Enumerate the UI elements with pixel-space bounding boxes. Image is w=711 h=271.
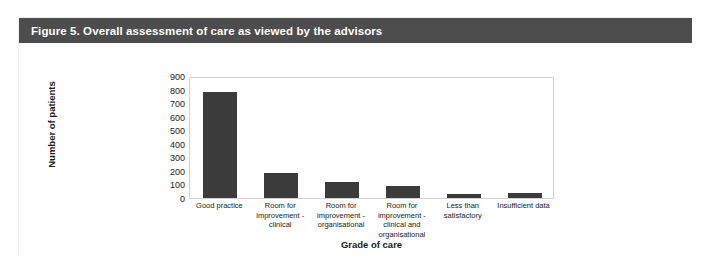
x-axis-tick-label: Room for improvement - clinical and orga… [368,201,437,239]
chart-plot-area: Number of patients 900800700600500400300… [19,43,692,255]
y-axis-tick-label: 400 [147,141,185,150]
figure-card: Figure 5. Overall assessment of care as … [18,17,691,255]
x-axis-tick-label: Insufficient data [489,201,558,211]
y-axis-title: Number of patients [46,65,57,185]
bar[interactable] [203,92,237,198]
x-axis-tick-label: Less than satisfactory [428,201,497,220]
bar-slot [494,78,555,198]
bar-slot [312,78,373,198]
x-axis-tick-label: Good practice [185,201,254,211]
y-axis-tick-label: 100 [147,181,185,190]
y-axis-tick-label: 800 [147,87,185,96]
bar[interactable] [325,182,359,198]
bar[interactable] [264,173,298,198]
y-axis-tick-label: 900 [147,73,185,82]
bar-slot [190,78,251,198]
y-axis-tick-label: 600 [147,114,185,123]
y-axis-tick-label: 300 [147,154,185,163]
plot-frame [189,77,554,199]
figure-header: Figure 5. Overall assessment of care as … [19,18,692,43]
bar-slot [373,78,434,198]
x-axis-tick-label: Room for improvement - organisational [307,201,376,230]
y-axis-tick-label: 0 [147,195,185,204]
y-axis-tick-label: 500 [147,127,185,136]
x-axis-title: Grade of care [189,239,554,250]
bar[interactable] [386,186,420,198]
bar-slot [433,78,494,198]
x-axis-tick-label: Room for improvement - clinical [246,201,315,230]
y-axis-tick-label: 200 [147,168,185,177]
y-axis-tick-label: 700 [147,100,185,109]
figure-title: Figure 5. Overall assessment of care as … [19,25,382,37]
bar[interactable] [508,193,542,198]
y-axis-tick-labels: 9008007006005004003002001000 [147,73,185,199]
bar-slot [251,78,312,198]
bar[interactable] [447,194,481,198]
bars-container [190,78,553,198]
